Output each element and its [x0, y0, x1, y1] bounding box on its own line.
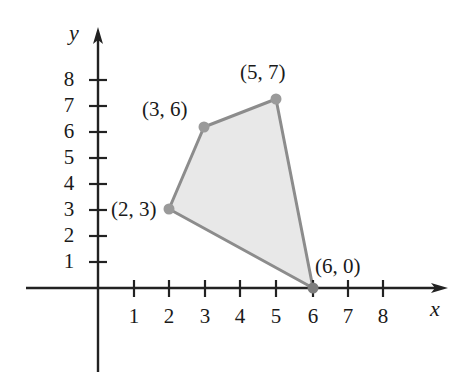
vertex-label-6-0: (6, 0): [315, 256, 361, 277]
x-tick-label-3: 3: [194, 306, 216, 327]
shaded-polygon: [169, 99, 313, 288]
y-tick-label-5: 5: [58, 147, 80, 168]
x-tick-label-2: 2: [158, 306, 180, 327]
y-tick-label-6: 6: [58, 121, 80, 142]
vertex-dot-2-3: [164, 204, 175, 215]
y-tick-label-7: 7: [58, 95, 80, 116]
x-tick-label-6: 6: [302, 306, 324, 327]
vertex-label-5-7: (5, 7): [240, 62, 286, 83]
x-tick-label-5: 5: [265, 306, 287, 327]
y-tick-label-2: 2: [58, 225, 80, 246]
x-tick-label-1: 1: [123, 306, 145, 327]
vertex-dot-5-7: [271, 94, 282, 105]
y-axis-label: y: [69, 22, 79, 44]
x-axis-label: x: [430, 298, 440, 320]
y-tick-label-8: 8: [58, 69, 80, 90]
vertex-dot-6-0: [308, 283, 319, 294]
x-tick-label-8: 8: [372, 306, 394, 327]
vertex-label-2-3: (2, 3): [111, 199, 157, 220]
y-tick-label-4: 4: [58, 173, 80, 194]
vertex-label-3-6: (3, 6): [142, 99, 188, 120]
x-tick-label-4: 4: [229, 306, 251, 327]
x-tick-label-7: 7: [337, 306, 359, 327]
vertex-dot-3-6: [199, 122, 210, 133]
y-tick-label-3: 3: [58, 199, 80, 220]
y-tick-label-1: 1: [58, 251, 80, 272]
coordinate-plane-figure: y x 8 7 6 5 4 3 2 1 1 2 3 4 5 6 7 8 (2, …: [0, 0, 459, 381]
